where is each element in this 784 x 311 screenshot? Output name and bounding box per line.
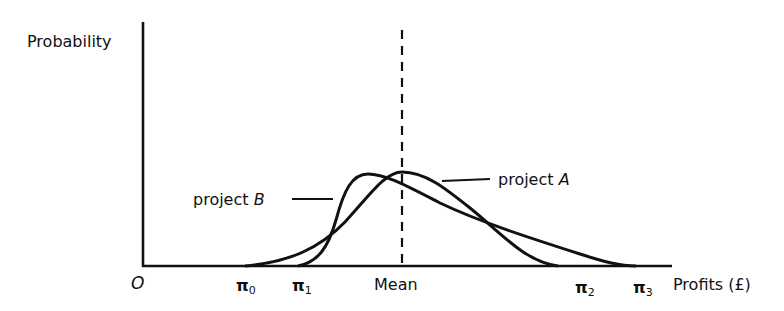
tick-pi1: π1 bbox=[292, 276, 312, 297]
x-axis-label: Profits (£) bbox=[673, 275, 751, 294]
y-axis-label: Probability bbox=[27, 32, 112, 51]
diagram-canvas: Probability O Mean Profits (£) π0 π1 π2 … bbox=[0, 0, 784, 311]
tick-pi0: π0 bbox=[236, 276, 256, 297]
mean-label: Mean bbox=[374, 275, 418, 294]
project-a-pointer bbox=[442, 179, 490, 181]
tick-pi3: π3 bbox=[633, 278, 653, 299]
origin-label: O bbox=[131, 273, 144, 293]
project-b-label: project B bbox=[193, 190, 265, 209]
project-a-label: project A bbox=[498, 170, 570, 189]
tick-pi2: π2 bbox=[575, 278, 595, 299]
